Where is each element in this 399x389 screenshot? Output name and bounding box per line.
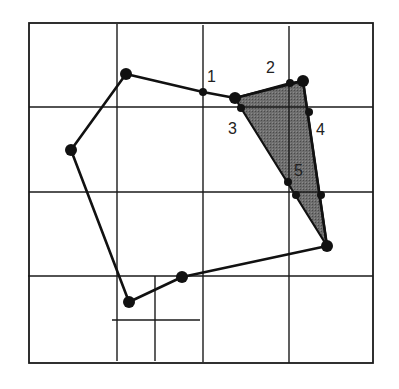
vertex-dot: [123, 296, 135, 308]
shaded-clip-polygon: [235, 81, 327, 246]
vertex-dot: [176, 271, 188, 283]
intersection-dot: [292, 191, 300, 199]
vertex-dot: [120, 68, 132, 80]
point-label: 4: [316, 121, 325, 138]
intersection-dot: [317, 191, 325, 199]
intersection-dot: [305, 108, 313, 116]
vertex-dot: [65, 144, 77, 156]
intersection-dot: [237, 104, 245, 112]
vertex-dot: [321, 240, 333, 252]
intersection-dot: [284, 178, 292, 186]
point-label: 2: [266, 59, 275, 76]
vertex-dot: [297, 75, 309, 87]
intersection-dot: [286, 79, 294, 87]
point-label: 3: [228, 120, 237, 137]
point-label: 5: [294, 162, 303, 179]
vertex-dot: [229, 92, 241, 104]
point-label: 1: [207, 68, 216, 85]
clipping-diagram: 12345: [0, 0, 399, 389]
intersection-dot: [199, 88, 207, 96]
clipped-region: [235, 81, 327, 246]
